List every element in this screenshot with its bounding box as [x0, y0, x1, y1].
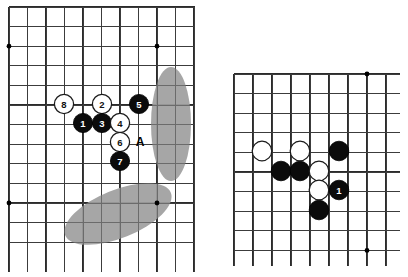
stone-move-number: 8 [61, 99, 66, 110]
star-point [155, 201, 160, 206]
stone-black-bottom[interactable] [309, 200, 329, 220]
black-stone[interactable] [309, 200, 329, 220]
star-point [365, 248, 370, 253]
black-stone[interactable] [329, 141, 349, 161]
stone-move-number: 5 [136, 99, 142, 110]
stone-3-black[interactable]: 3 [92, 113, 111, 132]
stone-1-black[interactable]: 1 [73, 113, 92, 132]
white-stone[interactable] [290, 141, 310, 161]
stone-white-left[interactable] [252, 141, 272, 161]
left-go-board: 82513467A [0, 0, 200, 277]
right-board-canvas: 1 [225, 55, 408, 277]
star-point [7, 44, 12, 49]
stone-4-white[interactable]: 4 [110, 113, 129, 132]
white-stone[interactable] [309, 180, 329, 200]
stone-8-white[interactable]: 8 [54, 94, 73, 113]
point-label-a: A [136, 135, 145, 149]
star-point [155, 44, 160, 49]
black-stone[interactable] [271, 161, 291, 181]
right-go-board: 1 [225, 55, 408, 277]
stone-move-number: 3 [99, 118, 104, 129]
stone-move-number: 6 [117, 137, 122, 148]
stone-white-mid-right[interactable] [309, 161, 329, 181]
white-stone[interactable] [309, 161, 329, 181]
stone-2-white[interactable]: 2 [92, 94, 111, 113]
stone-6-white[interactable]: 6 [110, 132, 129, 151]
stone-black-mid-left[interactable] [271, 161, 291, 181]
stone-5-black[interactable]: 5 [129, 94, 148, 113]
stone-black-mid[interactable] [290, 161, 310, 181]
star-point [365, 72, 370, 77]
stone-move-number: 7 [117, 156, 122, 167]
stone-move-number: 2 [99, 99, 104, 110]
stone-black-upper-right[interactable] [329, 141, 349, 161]
stone-1-black[interactable]: 1 [329, 180, 349, 200]
stone-white-upper[interactable] [290, 141, 310, 161]
stone-move-number: 4 [117, 118, 123, 129]
stone-white-lower[interactable] [309, 180, 329, 200]
white-stone[interactable] [252, 141, 272, 161]
left-board-canvas: 82513467A [0, 0, 200, 277]
stone-move-number: 1 [80, 118, 86, 129]
star-point [7, 201, 12, 206]
stone-7-black[interactable]: 7 [110, 151, 129, 170]
black-stone[interactable] [290, 161, 310, 181]
go-diagram-figure: 82513467A 1 [0, 0, 408, 277]
stone-move-number: 1 [336, 185, 342, 196]
